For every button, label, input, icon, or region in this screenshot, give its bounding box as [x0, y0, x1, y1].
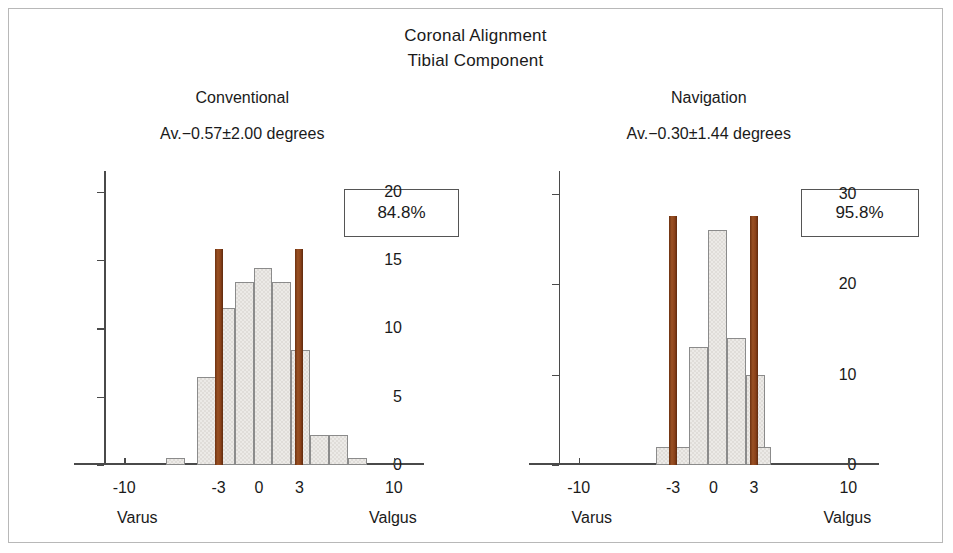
axis-label-varus-conventional: Varus: [117, 509, 158, 527]
figure-frame: Coronal Alignment Tibial Component Conve…: [8, 8, 943, 543]
panel-navigation: Navigation Av.−0.30±1.44 degrees 95.8% 0…: [476, 9, 943, 542]
threshold-marker-navigation-0: [669, 216, 677, 465]
panel-stats-conventional: Av.−0.57±2.00 degrees: [9, 125, 476, 143]
x-tick-label-navigation-1: -3: [666, 479, 680, 497]
plot-area-conventional: 05101520-10-30310: [104, 171, 414, 465]
y-tick-navigation-0: [552, 465, 559, 466]
y-tick-label-conventional-4: 20: [384, 183, 402, 201]
panel-conventional: Conventional Av.−0.57±2.00 degrees 84.8%…: [9, 9, 476, 542]
y-tick-conventional-3: [97, 260, 104, 261]
panel-title-navigation: Navigation: [476, 89, 943, 107]
y-tick-navigation-3: [552, 194, 559, 195]
histogram-bar-conventional-7: [310, 435, 329, 465]
histogram-bar-conventional-4: [254, 268, 273, 465]
histogram-bar-conventional-0: [166, 458, 185, 465]
x-tick-label-navigation-2: 0: [709, 479, 718, 497]
y-axis-line-conventional: [104, 171, 106, 465]
x-tick-label-navigation-3: 3: [749, 479, 758, 497]
histogram-bar-conventional-8: [329, 435, 348, 465]
histogram-bar-conventional-3: [235, 282, 254, 465]
histogram-bar-navigation-2: [689, 347, 708, 465]
threshold-marker-navigation-1: [750, 216, 758, 465]
threshold-marker-conventional-0: [215, 249, 223, 465]
y-tick-conventional-1: [97, 397, 104, 398]
y-tick-conventional-0: [97, 465, 104, 466]
y-tick-label-conventional-1: 5: [393, 388, 402, 406]
x-tick-label-conventional-4: 10: [385, 479, 403, 497]
x-tick-navigation-0: [579, 458, 580, 465]
x-tick-label-navigation-4: 10: [839, 479, 857, 497]
y-axis-line-navigation: [559, 171, 561, 465]
histogram-bar-navigation-4: [727, 338, 746, 465]
histogram-bar-conventional-9: [348, 458, 367, 465]
plot-area-navigation: 0102030-10-30310: [559, 171, 869, 465]
y-tick-label-conventional-2: 10: [384, 319, 402, 337]
panel-title-conventional: Conventional: [9, 89, 476, 107]
histogram-bar-navigation-3: [708, 230, 727, 465]
x-tick-label-conventional-2: 0: [255, 479, 264, 497]
x-tick-conventional-0: [124, 458, 125, 465]
x-tick-label-navigation-0: -10: [567, 479, 590, 497]
y-tick-navigation-2: [552, 284, 559, 285]
histogram-bar-conventional-5: [272, 282, 291, 465]
y-tick-navigation-1: [552, 375, 559, 376]
x-tick-navigation-4: [848, 458, 849, 465]
x-tick-label-conventional-0: -10: [113, 479, 136, 497]
y-tick-label-navigation-1: 10: [839, 366, 857, 384]
y-tick-label-conventional-3: 15: [384, 251, 402, 269]
axis-label-varus-navigation: Varus: [572, 509, 613, 527]
axis-label-valgus-navigation: Valgus: [824, 509, 872, 527]
x-tick-label-conventional-3: 3: [295, 479, 304, 497]
x-tick-label-conventional-1: -3: [211, 479, 225, 497]
x-tick-conventional-4: [394, 458, 395, 465]
y-tick-conventional-4: [97, 192, 104, 193]
threshold-marker-conventional-1: [295, 249, 303, 465]
y-tick-label-navigation-3: 30: [839, 185, 857, 203]
histogram-bar-conventional-1: [197, 377, 216, 465]
panel-stats-navigation: Av.−0.30±1.44 degrees: [476, 125, 943, 143]
axis-label-valgus-conventional: Valgus: [369, 509, 417, 527]
y-tick-label-navigation-2: 20: [839, 275, 857, 293]
y-tick-conventional-2: [97, 328, 104, 329]
